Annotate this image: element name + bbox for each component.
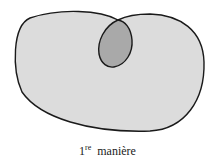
venn-diagram (0, 0, 215, 145)
figure-caption: 1re manière (0, 143, 215, 159)
caption-superscript: re (85, 143, 91, 152)
caption-text: manière (97, 144, 136, 158)
